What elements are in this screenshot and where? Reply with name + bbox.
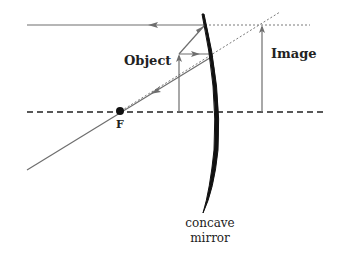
focal-point-label: F bbox=[116, 118, 124, 131]
mirror-label-line1: concave bbox=[185, 216, 234, 230]
arrow-up-right-icon bbox=[196, 26, 204, 33]
image-label: Image bbox=[271, 46, 317, 61]
ray-diagram: F Object Image concave mirror bbox=[0, 0, 343, 257]
mirror-label-line2: mirror bbox=[190, 231, 230, 245]
object-label: Object bbox=[124, 53, 171, 68]
focal-point-dot bbox=[116, 107, 124, 115]
arrow-down-left-icon bbox=[150, 86, 161, 94]
concave-mirror bbox=[202, 14, 219, 213]
